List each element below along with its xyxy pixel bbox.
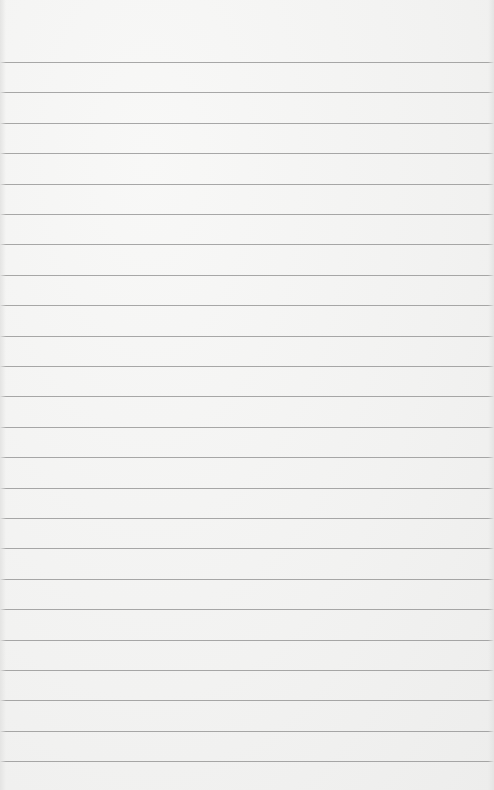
ruled-line bbox=[0, 92, 494, 93]
ruled-line bbox=[0, 731, 494, 732]
ruled-line bbox=[0, 153, 494, 154]
ruled-line bbox=[0, 244, 494, 245]
paper-edge-left bbox=[0, 0, 6, 790]
lined-paper-sheet bbox=[0, 0, 494, 790]
ruled-line bbox=[0, 579, 494, 580]
ruled-line bbox=[0, 184, 494, 185]
ruled-line bbox=[0, 700, 494, 701]
ruled-line bbox=[0, 396, 494, 397]
ruled-line bbox=[0, 518, 494, 519]
ruled-line bbox=[0, 457, 494, 458]
ruled-line bbox=[0, 548, 494, 549]
ruled-line bbox=[0, 670, 494, 671]
ruled-line bbox=[0, 336, 494, 337]
ruled-line bbox=[0, 275, 494, 276]
ruled-line bbox=[0, 761, 494, 762]
ruled-line bbox=[0, 609, 494, 610]
ruled-line bbox=[0, 366, 494, 367]
ruled-line bbox=[0, 305, 494, 306]
ruled-line bbox=[0, 214, 494, 215]
ruled-line bbox=[0, 640, 494, 641]
ruled-line bbox=[0, 488, 494, 489]
ruled-line bbox=[0, 123, 494, 124]
ruled-line bbox=[0, 62, 494, 63]
paper-edge-right bbox=[488, 0, 494, 790]
ruled-line bbox=[0, 427, 494, 428]
